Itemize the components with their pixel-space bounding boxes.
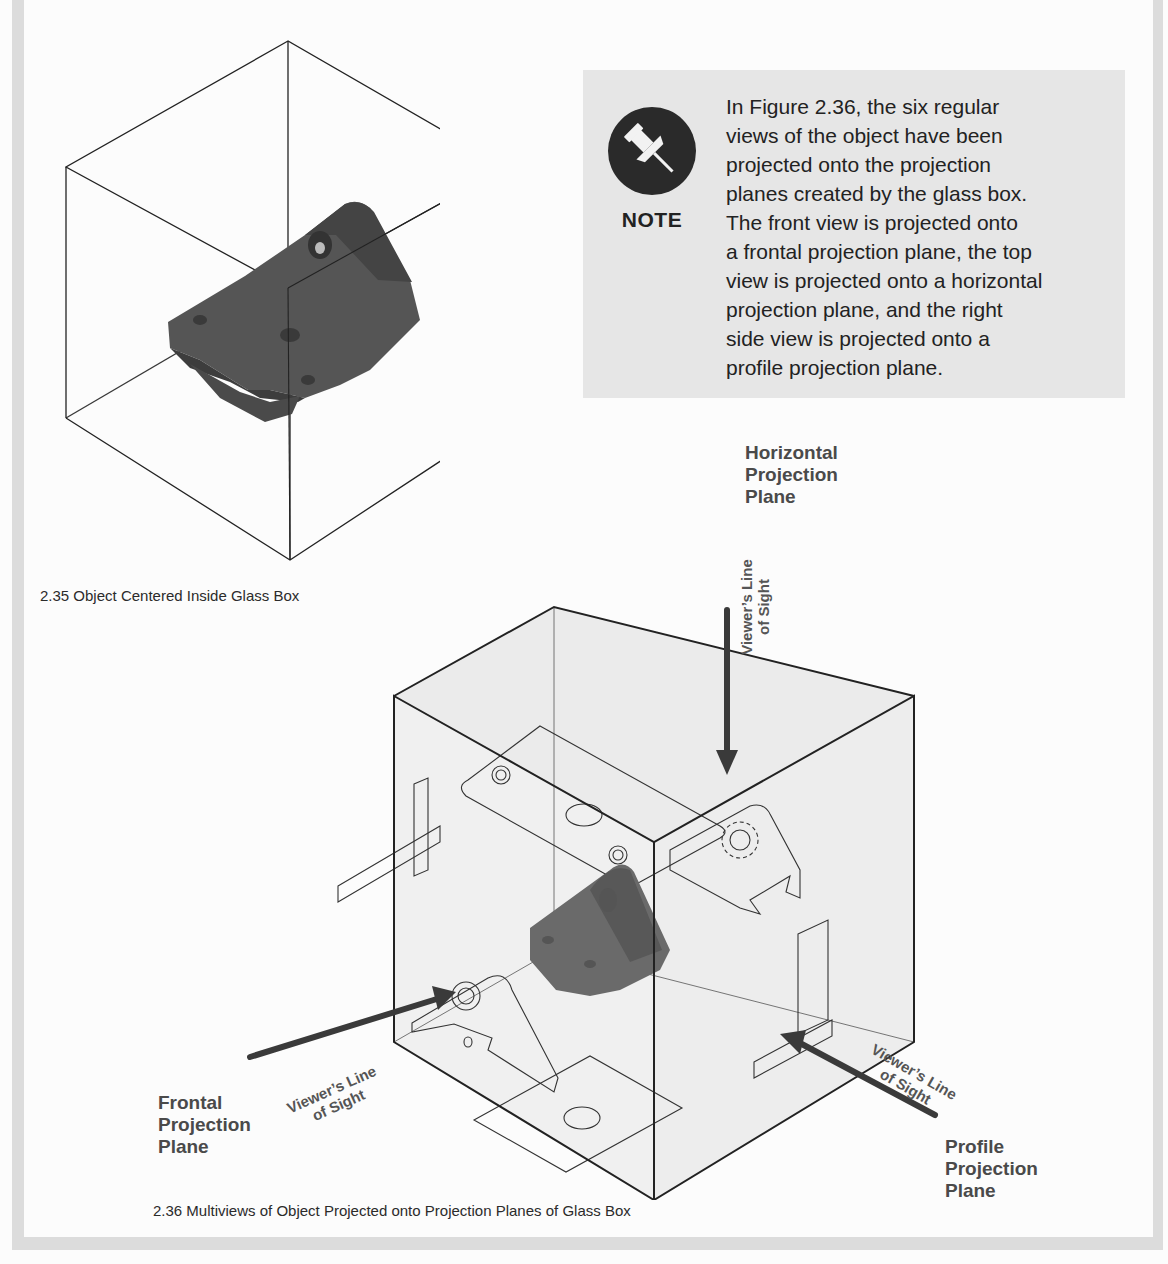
line-of-sight-label-horizontal: Viewer’s Line of Sight bbox=[738, 552, 772, 662]
figure-2-36-caption: 2.36 Multiviews of Object Projected onto… bbox=[153, 1202, 631, 1219]
note-box: NOTE In Figure 2.36, the six regular vie… bbox=[583, 70, 1125, 398]
label-line: Horizontal bbox=[745, 442, 838, 464]
label-line: Plane bbox=[158, 1136, 251, 1158]
profile-projection-plane-label: Profile Projection Plane bbox=[945, 1136, 1038, 1202]
page-frame-bottom bbox=[12, 1237, 1163, 1250]
page-frame-right bbox=[1153, 0, 1163, 1250]
note-line: views of the object have been bbox=[726, 121, 1116, 150]
bracket-object bbox=[168, 202, 420, 422]
frontal-projection-plane-label: Frontal Projection Plane bbox=[158, 1092, 251, 1158]
note-line: planes created by the glass box. bbox=[726, 179, 1116, 208]
label-line: Plane bbox=[745, 486, 838, 508]
horizontal-projection-plane-label: Horizontal Projection Plane bbox=[745, 442, 838, 508]
note-line: projected onto the projection bbox=[726, 150, 1116, 179]
note-line: view is projected onto a horizontal bbox=[726, 266, 1116, 295]
note-text: In Figure 2.36, the six regular views of… bbox=[726, 92, 1116, 382]
label-line: Plane bbox=[945, 1180, 1038, 1202]
note-line: profile projection plane. bbox=[726, 353, 1116, 382]
label-line: Viewer’s Line bbox=[738, 552, 755, 662]
label-line: of Sight bbox=[755, 552, 772, 662]
note-line: In Figure 2.36, the six regular bbox=[726, 92, 1116, 121]
label-line: Projection bbox=[945, 1158, 1038, 1180]
note-line: projection plane, and the right bbox=[726, 295, 1116, 324]
label-line: Projection bbox=[745, 464, 838, 486]
note-label: NOTE bbox=[607, 208, 697, 232]
note-line: a frontal projection plane, the top bbox=[726, 237, 1116, 266]
note-line: The front view is projected onto bbox=[726, 208, 1116, 237]
note-icon-group: NOTE bbox=[607, 106, 697, 232]
label-line: Projection bbox=[158, 1114, 251, 1136]
page-frame-left bbox=[12, 0, 24, 1250]
pushpin-icon bbox=[607, 106, 697, 196]
note-line: side view is projected onto a bbox=[726, 324, 1116, 353]
label-line: Profile bbox=[945, 1136, 1038, 1158]
label-line: Frontal bbox=[158, 1092, 251, 1114]
